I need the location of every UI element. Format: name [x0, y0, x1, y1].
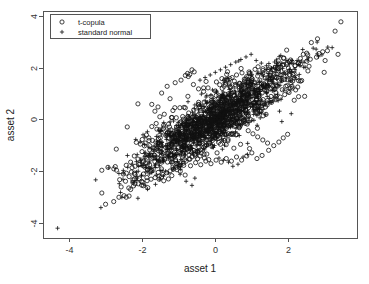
x-tick-label: -4 — [65, 245, 73, 255]
legend-label: t-copula — [78, 18, 106, 27]
y-tick-label: -2 — [29, 167, 39, 175]
y-tick-label: -4 — [29, 219, 39, 227]
data-points-layer — [56, 20, 344, 231]
y-tick-label: 4 — [29, 14, 39, 19]
y-tick-label: 2 — [29, 66, 39, 71]
x-axis-title: asset 1 — [184, 263, 217, 274]
y-axis-title: asset 2 — [5, 108, 16, 141]
scatter-plot-figure: -4-202-4-2024 t-copulastandard normal as… — [0, 0, 369, 284]
legend-label: standard normal — [78, 28, 133, 37]
plot-canvas: -4-202-4-2024 t-copulastandard normal as… — [0, 0, 369, 284]
x-tick-label: 2 — [286, 245, 291, 255]
x-tick-label: -2 — [138, 245, 146, 255]
plot-legend: t-copulastandard normal — [51, 15, 151, 39]
x-tick-label: 0 — [213, 245, 218, 255]
y-tick-label: 0 — [29, 117, 39, 122]
